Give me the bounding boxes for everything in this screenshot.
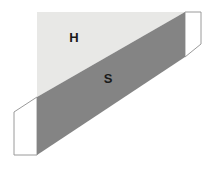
figure-canvas: H S — [0, 0, 214, 170]
region-label-s: S — [104, 71, 113, 86]
region-label-h: H — [69, 30, 78, 45]
shear-band-diagram: H S — [0, 0, 214, 170]
